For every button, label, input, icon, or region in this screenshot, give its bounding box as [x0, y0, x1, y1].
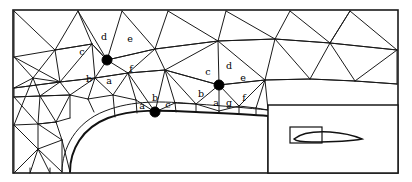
label-right-a: a [213, 97, 219, 108]
label-left-d: d [101, 31, 107, 42]
label-left-e: e [127, 33, 133, 44]
label-right-g: g [226, 97, 232, 108]
label-left-a: a [106, 75, 112, 86]
label-left-b: b [86, 73, 92, 84]
label-center-b: b [152, 92, 158, 103]
label-center-c: c [165, 99, 170, 110]
airfoil-overview-inset [268, 105, 398, 173]
label-right-d: d [226, 60, 232, 71]
mesh-svg: c d e b a f c d e b a g f a b c [0, 0, 412, 182]
label-right-b: b [198, 88, 204, 99]
node-center[interactable] [150, 107, 160, 117]
label-right-c: c [205, 66, 210, 77]
mesh-figure: c d e b a f c d e b a g f a b c [0, 0, 412, 182]
node-right[interactable] [214, 80, 224, 90]
label-right-e: e [240, 72, 246, 83]
label-left-c: c [79, 46, 84, 57]
node-left[interactable] [102, 55, 112, 65]
label-center-a: a [139, 100, 145, 111]
